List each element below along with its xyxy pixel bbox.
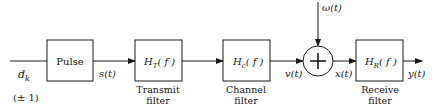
signal-x-label: x(t) [335,68,353,79]
noise-label: ω(t) [322,2,342,13]
transmit-caption-2: filter [146,95,170,106]
channel-caption-2: filter [234,95,258,106]
signal-y-label: y(t) [407,68,426,79]
receive-caption-1: Receive [361,84,399,95]
receive-caption-2: filter [368,95,392,106]
signal-v-label: v(t) [285,68,303,79]
pulse-label: Pulse [56,56,83,67]
channel-caption-1: Channel [226,84,266,95]
signal-s-label: s(t) [99,68,116,79]
input-values: (± 1) [13,92,39,103]
block-diagram: dk (± 1) Pulse s(t) HT( f ) Transmit fil… [0,0,436,112]
input-symbol: dk [18,68,30,83]
transmit-caption-1: Transmit [136,84,180,95]
